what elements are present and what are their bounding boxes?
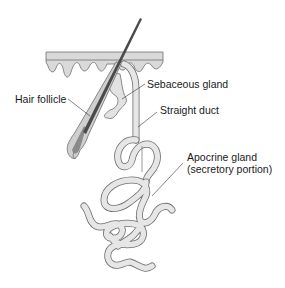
- label-straight-duct: Straight duct: [160, 104, 219, 116]
- label-sebaceous-gland: Sebaceous gland: [147, 78, 228, 90]
- apocrine-gland-diagram: Sebaceous gland Hair follicle Straight d…: [0, 0, 285, 288]
- label-apocrine-secretory: (secretory portion): [187, 163, 272, 175]
- leader-hair-follicle: [68, 99, 90, 116]
- apocrine-secretory-coil: [84, 180, 172, 268]
- label-apocrine-gland: Apocrine gland: [187, 151, 257, 163]
- leader-straight-duct: [138, 112, 157, 127]
- label-hair-follicle: Hair follicle: [15, 93, 67, 105]
- epidermis: [46, 52, 163, 77]
- coiled-duct: [118, 140, 158, 182]
